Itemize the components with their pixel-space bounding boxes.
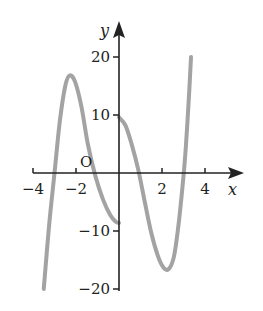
axes [33, 32, 232, 291]
y-tick-label: −20 [78, 280, 110, 298]
y-tick-label: 20 [91, 48, 110, 66]
x-tick-label: 4 [200, 180, 210, 198]
y-tick-label: −10 [78, 222, 110, 240]
x-tick-label: −2 [65, 180, 87, 198]
x-tick-label: −4 [22, 180, 44, 198]
origin-label: O [80, 153, 92, 171]
y-axis-label: y [99, 21, 110, 40]
curve-right [119, 57, 191, 270]
x-tick-label: 2 [157, 180, 167, 198]
y-tick-label: 10 [91, 106, 110, 124]
x-axis-label: x [228, 180, 237, 199]
chart-canvas: −4−224 2010−10−20 x y O [0, 0, 263, 311]
